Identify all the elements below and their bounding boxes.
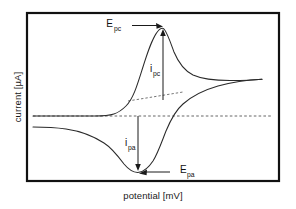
epa-subscript: pa: [187, 171, 195, 179]
cv-plot-svg: E pc E pa i pc i pa current [µA] potenti…: [0, 0, 296, 209]
epc-symbol: E: [106, 18, 113, 29]
x-axis-label: potential [mV]: [123, 190, 183, 201]
ipc-subscript: pc: [153, 70, 161, 78]
ipa-symbol: i: [125, 137, 127, 148]
cyclic-voltammogram-figure: E pc E pa i pc i pa current [µA] potenti…: [0, 0, 296, 209]
ipa-subscript: pa: [128, 144, 136, 152]
y-axis-label: current [µA]: [12, 72, 23, 123]
ipc-symbol: i: [150, 63, 152, 74]
epc-subscript: pc: [114, 25, 122, 33]
epa-symbol: E: [180, 164, 187, 175]
